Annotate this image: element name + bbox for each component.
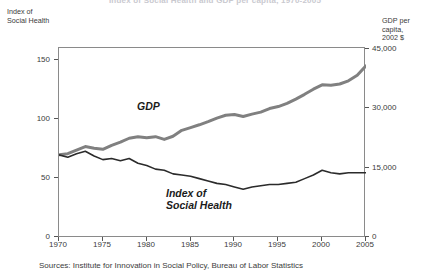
left-tick-label-50: 50 bbox=[16, 173, 50, 182]
right-tick-label-15000: 15,000 bbox=[372, 163, 418, 172]
right-axis-caption: GDP per capita, 2002 $ bbox=[382, 17, 430, 43]
index-of-social-health-series-label: Index of Social Health bbox=[166, 188, 232, 211]
x-tick-label-1990: 1990 bbox=[213, 240, 253, 249]
gdp-series-line bbox=[59, 66, 366, 155]
x-tick-label-2000: 2000 bbox=[301, 240, 341, 249]
right-tick-label-30000: 30,000 bbox=[372, 103, 418, 112]
right-tick-label-45000: 45,000 bbox=[372, 44, 418, 53]
x-tick-label-1980: 1980 bbox=[126, 240, 166, 249]
x-tick-label-1975: 1975 bbox=[82, 240, 122, 249]
index-of-social-health-series-line bbox=[59, 151, 366, 189]
x-tick-label-1985: 1985 bbox=[170, 240, 210, 249]
x-tick-label-2005: 2005 bbox=[345, 240, 385, 249]
chart-title: Index of Social Health and GDP per capit… bbox=[0, 0, 430, 5]
left-tick-label-100: 100 bbox=[16, 114, 50, 123]
gdp-series-label: GDP bbox=[137, 101, 160, 113]
x-tick-label-1995: 1995 bbox=[257, 240, 297, 249]
sources-note: Sources: Institute for Innovation in Soc… bbox=[39, 261, 303, 270]
left-axis-caption: Index of Social Health bbox=[7, 8, 49, 25]
x-tick-label-1970: 1970 bbox=[38, 240, 78, 249]
left-tick-label-150: 150 bbox=[16, 55, 50, 64]
chart-container: Index of Social Health and GDP per capit… bbox=[0, 0, 430, 279]
